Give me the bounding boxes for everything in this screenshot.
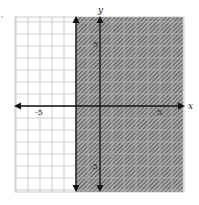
y-tick-label-neg5: -5	[90, 162, 98, 171]
x-axis-label: x	[188, 101, 193, 111]
x-tick-label-neg5: -5	[35, 108, 43, 117]
y-tick-label-5: 5	[93, 40, 98, 49]
y-axis-label: y	[97, 5, 104, 15]
stray-dot	[1, 16, 3, 18]
x-tick-label-5: 5	[157, 108, 162, 117]
inequality-graph: y x -5 5 5 -5	[0, 0, 199, 205]
